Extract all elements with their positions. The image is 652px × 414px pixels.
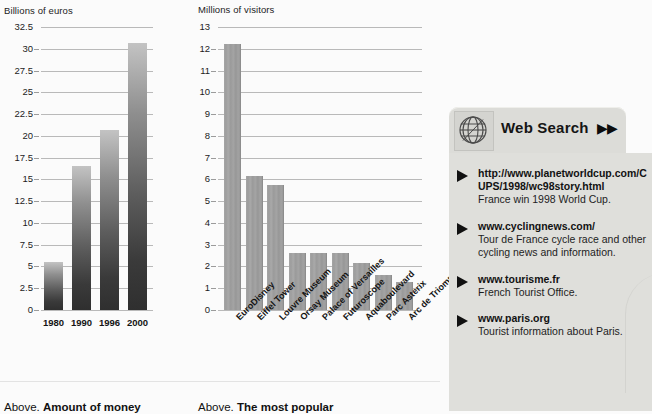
- y-axis-tick-label: 30: [5, 43, 33, 54]
- y-axis-tick-mark: [211, 136, 216, 137]
- caption-chart-visitors: Above. The most popular: [198, 400, 334, 414]
- y-axis-tick-mark: [211, 266, 216, 267]
- y-axis-tick-label: 10: [182, 86, 210, 97]
- y-axis-tick-label: 25: [5, 86, 33, 97]
- fast-forward-icon[interactable]: ▶▶: [597, 120, 617, 136]
- y-axis-tick-label: 4: [182, 217, 210, 228]
- y-axis-tick-label: 7.5: [5, 239, 33, 250]
- y-axis-tick-mark: [34, 158, 39, 159]
- x-axis-tick-label: 1996: [95, 317, 124, 328]
- y-axis-tick-label: 6: [182, 173, 210, 184]
- y-axis-tick-label: 5: [182, 195, 210, 206]
- y-axis-tick-label: 8: [182, 130, 210, 141]
- page-root: Billions of euros 32.53027.52522.52017.5…: [0, 0, 652, 414]
- y-axis-tick-label: 13: [182, 21, 210, 32]
- y-axis-tick-mark: [211, 92, 216, 93]
- y-axis-tick-mark: [34, 310, 39, 311]
- y-axis-tick-label: 2: [182, 260, 210, 271]
- gridline: [218, 136, 422, 137]
- y-axis-tick-mark: [211, 114, 216, 115]
- y-axis-tick-mark: [34, 71, 39, 72]
- y-axis-tick-mark: [211, 49, 216, 50]
- y-axis-tick-label: 7: [182, 152, 210, 163]
- gridline: [218, 49, 422, 50]
- bar: [44, 262, 63, 310]
- y-axis-tick-mark: [211, 71, 216, 72]
- caption-visitors-lead: Above.: [198, 401, 234, 413]
- caption-money-text: Amount of money: [43, 401, 141, 413]
- y-axis-tick-mark: [34, 223, 39, 224]
- y-axis-tick-label: 15: [5, 173, 33, 184]
- y-axis-tick-mark: [34, 92, 39, 93]
- y-axis-tick-mark: [34, 266, 39, 267]
- y-axis-tick-mark: [34, 179, 39, 180]
- bar: [100, 130, 119, 310]
- result-description: Tour de France cycle race and other cycl…: [478, 233, 652, 260]
- y-axis-tick-mark: [34, 136, 39, 137]
- y-axis-tick-label: 5: [5, 260, 33, 271]
- y-axis-tick-label: 11: [182, 65, 210, 76]
- result-description: France win 1998 World Cup.: [478, 193, 652, 207]
- y-axis-tick-mark: [34, 288, 39, 289]
- y-axis-tick-mark: [34, 245, 39, 246]
- y-axis-tick-mark: [34, 201, 39, 202]
- web-search-results-list: http://www.planetworldcup.com/CUPS/1998/…: [449, 153, 652, 411]
- bar: [72, 166, 91, 310]
- gridline: [218, 114, 422, 115]
- chart-billions-of-euros: Billions of euros 32.53027.52522.52017.5…: [0, 0, 180, 330]
- gridline: [218, 92, 422, 93]
- y-axis-tick-label: 0: [5, 304, 33, 315]
- y-axis-tick-mark: [211, 179, 216, 180]
- web-search-result[interactable]: http://www.planetworldcup.com/CUPS/1998/…: [457, 167, 652, 207]
- chart-visitors-plot-area: 131211109876543210: [218, 27, 422, 310]
- gridline: [218, 71, 422, 72]
- y-axis-tick-label: 3: [182, 239, 210, 250]
- y-axis-tick-label: 12: [182, 43, 210, 54]
- result-url-link[interactable]: www.tourisme.fr: [478, 273, 652, 286]
- x-axis-tick-label: 2000: [123, 317, 152, 328]
- y-axis-tick-label: 17.5: [5, 152, 33, 163]
- y-axis-tick-label: 10: [5, 217, 33, 228]
- web-search-result[interactable]: www.paris.orgTourist information about P…: [457, 312, 652, 339]
- y-axis-tick-label: 27.5: [5, 65, 33, 76]
- y-axis-tick-label: 9: [182, 108, 210, 119]
- y-axis-tick-label: 22.5: [5, 108, 33, 119]
- x-axis-tick-label: 1990: [67, 317, 96, 328]
- gridline: [218, 27, 422, 28]
- result-url-link[interactable]: http://www.planetworldcup.com/CUPS/1998/…: [478, 167, 652, 193]
- y-axis-tick-label: 12.5: [5, 195, 33, 206]
- y-axis-tick-mark: [211, 245, 216, 246]
- web-search-result[interactable]: www.cyclingnews.com/Tour de France cycle…: [457, 220, 652, 260]
- y-axis-tick-mark: [211, 201, 216, 202]
- y-axis-tick-label: 0: [182, 304, 210, 315]
- y-axis-tick-mark: [34, 49, 39, 50]
- globe-icon: [454, 111, 494, 151]
- y-axis-tick-mark: [211, 223, 216, 224]
- chart-visitors-y-axis-title: Millions of visitors: [198, 4, 274, 15]
- chart-money-plot-area: 32.53027.52522.52017.51512.5107.552.50: [41, 27, 153, 310]
- gridline: [41, 310, 153, 311]
- play-triangle-icon: [457, 223, 468, 235]
- y-axis-tick-label: 20: [5, 130, 33, 141]
- gridline: [218, 158, 422, 159]
- web-search-title: Web Search: [501, 119, 589, 136]
- web-search-result[interactable]: www.tourisme.frFrench Tourist Office.: [457, 273, 652, 300]
- bar: [128, 43, 147, 310]
- y-axis-tick-label: 32.5: [5, 21, 33, 32]
- result-description: Tourist information about Paris.: [478, 325, 652, 339]
- result-description: French Tourist Office.: [478, 286, 652, 300]
- caption-money-lead: Above.: [4, 401, 40, 413]
- chart-money-y-axis-title: Billions of euros: [4, 5, 73, 16]
- x-axis-tick-label: 1980: [39, 317, 68, 328]
- y-axis-tick-mark: [211, 158, 216, 159]
- page-divider: [0, 381, 440, 382]
- result-url-link[interactable]: www.cyclingnews.com/: [478, 220, 652, 233]
- y-axis-tick-mark: [211, 310, 216, 311]
- y-axis-tick-label: 2.5: [5, 282, 33, 293]
- gridline: [41, 27, 153, 28]
- play-triangle-icon: [457, 276, 468, 288]
- caption-chart-money: Above. Amount of money: [4, 400, 141, 414]
- web-search-panel: Web Search ▶▶ http://www.planetworldcup.…: [449, 107, 652, 411]
- play-triangle-icon: [457, 315, 468, 327]
- result-url-link[interactable]: www.paris.org: [478, 312, 652, 325]
